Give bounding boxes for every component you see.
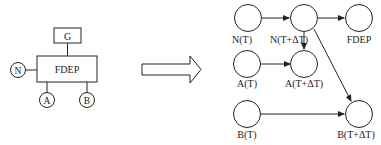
node-b-t-label: B(T): [237, 129, 256, 141]
edge-ntdt-btdt: [314, 29, 351, 101]
transform-arrow: [142, 56, 201, 83]
node-n-tdt-label: N(T+ΔT): [270, 34, 308, 46]
diagram-canvas: G FDEP N A B N(T) N(T+ΔT) FDEP A(T) A: [0, 0, 381, 145]
input-n-label: N: [15, 66, 22, 76]
fdep-gate-diagram: G FDEP N A B: [11, 28, 98, 108]
node-fdep-label: FDEP: [347, 34, 372, 45]
node-a-tdt: [291, 51, 318, 78]
node-b-tdt-label: B(T+ΔT): [337, 129, 375, 141]
node-b-t: [234, 101, 261, 128]
node-n-t: [235, 5, 262, 32]
converted-graph: N(T) N(T+ΔT) FDEP A(T) A(T+ΔT) B(T) B(T+…: [232, 5, 375, 142]
node-b-tdt: [346, 101, 373, 128]
node-a-tdt-label: A(T+ΔT): [285, 78, 323, 90]
input-b-label: B: [84, 96, 90, 106]
node-a-t: [234, 51, 261, 78]
node-n-t-label: N(T): [232, 34, 252, 46]
node-a-t-label: A(T): [237, 78, 257, 90]
node-fdep: [346, 5, 373, 32]
fdep-gate-label: FDEP: [55, 64, 80, 75]
trigger-label: G: [64, 31, 71, 42]
node-n-tdt: [291, 5, 318, 32]
input-a-label: A: [44, 96, 51, 106]
